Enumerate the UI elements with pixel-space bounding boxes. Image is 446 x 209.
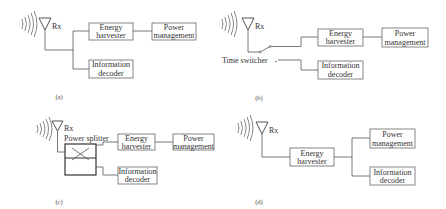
panel-caption: (b) xyxy=(255,94,263,102)
power-management-block: Power management xyxy=(370,129,415,148)
svg-text:decoder: decoder xyxy=(328,70,354,79)
antenna-label: Rx xyxy=(269,126,278,135)
panel-c: Rx Power splitter Energy harvester Power… xyxy=(37,117,215,206)
svg-text:decoder: decoder xyxy=(125,175,151,184)
radio-wave-icon xyxy=(22,11,37,37)
power-management-block: Power management xyxy=(173,134,215,151)
antenna-label: Rx xyxy=(255,22,264,31)
radio-wave-icon xyxy=(238,115,253,141)
antenna-icon xyxy=(256,122,268,157)
panel-d: Rx Energy harvester Power management Inf… xyxy=(238,115,415,206)
svg-text:harvester: harvester xyxy=(326,37,356,46)
svg-text:decoder: decoder xyxy=(380,176,406,185)
information-decoder-block: Information decoder xyxy=(370,167,415,185)
power-management-block: Power management xyxy=(382,28,428,47)
radio-wave-icon xyxy=(37,117,52,141)
antenna-label: Rx xyxy=(52,22,61,31)
antenna-label: Rx xyxy=(64,124,73,133)
svg-text:harvester: harvester xyxy=(297,157,327,166)
power-management-block: Power management xyxy=(152,23,196,40)
time-switcher-label: Time switcher xyxy=(222,56,268,65)
antenna-icon xyxy=(39,18,51,50)
svg-text:management: management xyxy=(385,38,427,47)
antenna-icon xyxy=(242,18,254,52)
energy-harvester-block: Energy harvester xyxy=(118,134,155,151)
energy-harvester-block: Energy harvester xyxy=(89,23,133,40)
panel-caption: (d) xyxy=(255,198,263,206)
panel-caption: (a) xyxy=(55,93,62,101)
svg-text:harvester: harvester xyxy=(96,31,126,40)
svg-text:decoder: decoder xyxy=(98,69,124,78)
swipt-receiver-architectures-diagram: Rx Energy harvester Power management Inf… xyxy=(0,0,446,209)
panel-caption: (c) xyxy=(55,198,62,206)
information-decoder-block: Information decoder xyxy=(118,167,157,184)
svg-text:harvester: harvester xyxy=(122,142,152,151)
energy-harvester-block: Energy harvester xyxy=(318,29,363,46)
energy-harvester-block: Energy harvester xyxy=(290,148,334,166)
information-decoder-block: Information decoder xyxy=(318,61,363,79)
information-decoder-block: Information decoder xyxy=(89,60,133,78)
panel-a: Rx Energy harvester Power management Inf… xyxy=(22,11,196,101)
svg-text:management: management xyxy=(372,139,414,148)
power-splitter-label: Power splitter xyxy=(64,134,109,143)
time-switch-icon xyxy=(248,46,271,53)
svg-text:management: management xyxy=(154,31,196,40)
radio-wave-icon xyxy=(222,11,237,37)
panel-b: Rx Time switcher Energy harvester Power … xyxy=(222,11,428,102)
power-splitter-block xyxy=(65,144,96,175)
svg-text:management: management xyxy=(173,142,215,151)
